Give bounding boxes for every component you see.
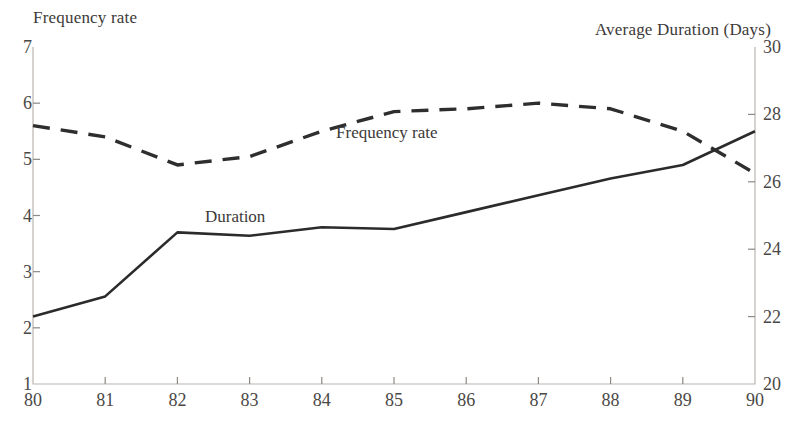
left-axis-tick-label: 3: [23, 261, 32, 282]
axis-frame: [33, 47, 755, 384]
left-axis-tick-label: 6: [23, 93, 32, 114]
right-axis-tick-label: 22: [763, 306, 781, 327]
chart-container: Frequency rate Average Duration (Days) 1…: [0, 0, 795, 432]
left-axis-tick-label: 7: [23, 37, 32, 58]
x-axis-tick-label: 86: [457, 390, 475, 411]
x-axis-tick-label: 84: [313, 390, 331, 411]
series-annotation-frequency-rate: Frequency rate: [336, 123, 437, 143]
x-axis-tick-label: 88: [602, 390, 620, 411]
axis-ticks: [33, 103, 755, 384]
right-axis-tick-label: 28: [763, 104, 781, 125]
x-axis-tick-label: 81: [96, 390, 114, 411]
axis-frame-path: [33, 47, 755, 384]
right-axis-tick-label: 20: [763, 374, 781, 395]
x-axis-tick-label: 82: [168, 390, 186, 411]
left-axis-tick-label: 5: [23, 149, 32, 170]
x-axis-tick-label: 80: [24, 390, 42, 411]
left-axis-tick-label: 2: [23, 317, 32, 338]
x-axis-tick-label: 89: [674, 390, 692, 411]
x-axis-tick-label: 83: [241, 390, 259, 411]
right-axis-tick-label: 24: [763, 239, 781, 260]
x-axis-tick-label: 90: [746, 390, 764, 411]
left-axis-tick-label: 4: [23, 205, 32, 226]
series-annotation-duration: Duration: [205, 207, 265, 227]
right-axis-tick-label: 26: [763, 171, 781, 192]
right-axis-tick-label: 30: [763, 37, 781, 58]
series-line-duration: [33, 131, 755, 316]
x-axis-tick-label: 85: [385, 390, 403, 411]
plot-area: [0, 0, 795, 432]
x-axis-tick-label: 87: [529, 390, 547, 411]
